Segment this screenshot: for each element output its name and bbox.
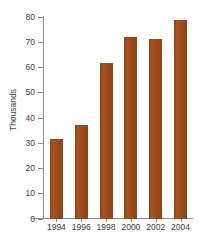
y-axis-title: Thousands <box>6 0 20 219</box>
y-axis-tick-mark <box>38 92 43 93</box>
y-axis-tick-mark <box>38 42 43 43</box>
bar-chart: Thousands 01020304050607080 199419961998… <box>0 0 199 247</box>
y-axis-tick-label: 0 <box>5 214 35 224</box>
bar-group[interactable] <box>149 17 162 219</box>
x-axis-tick-label: 1998 <box>92 222 120 232</box>
y-axis-tick-label: 70 <box>5 37 35 47</box>
y-axis-tick-mark <box>38 17 43 18</box>
bar[interactable] <box>174 20 187 219</box>
bar-group[interactable] <box>174 17 187 219</box>
bar[interactable] <box>149 39 162 219</box>
y-axis-tick-label: 80 <box>5 12 35 22</box>
plot-area <box>44 17 193 219</box>
x-axis-tick-label: 2004 <box>167 222 195 232</box>
y-axis-tick-mark <box>38 118 43 119</box>
y-axis-tick-label: 20 <box>5 163 35 173</box>
x-axis-tick-label: 1996 <box>67 222 95 232</box>
y-axis-tick-mark <box>38 219 43 220</box>
bar-group[interactable] <box>50 17 63 219</box>
bar-group[interactable] <box>75 17 88 219</box>
y-axis-tick-mark <box>38 67 43 68</box>
bar-group[interactable] <box>124 17 137 219</box>
y-axis-tick-mark <box>38 193 43 194</box>
y-axis-tick-label: 40 <box>5 113 35 123</box>
y-axis-tick-mark <box>38 143 43 144</box>
x-axis-tick-label: 2002 <box>142 222 170 232</box>
bar-group[interactable] <box>100 17 113 219</box>
y-axis-tick-label: 50 <box>5 87 35 97</box>
y-axis-tick-label: 10 <box>5 188 35 198</box>
x-axis-tick-label: 2000 <box>117 222 145 232</box>
bar[interactable] <box>75 125 88 219</box>
x-axis-tick-label: 1994 <box>42 222 70 232</box>
bar[interactable] <box>50 139 63 219</box>
y-axis-tick-label: 30 <box>5 138 35 148</box>
bar[interactable] <box>124 37 137 219</box>
y-axis-tick-label: 60 <box>5 62 35 72</box>
y-axis-tick-mark <box>38 168 43 169</box>
bar[interactable] <box>100 63 113 219</box>
